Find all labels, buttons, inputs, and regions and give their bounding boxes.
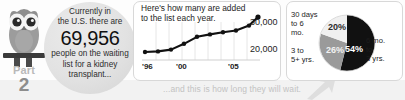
pie-value-20: 20% bbox=[328, 22, 346, 32]
chart-data-points bbox=[143, 14, 261, 54]
pie-label-line-3: 3 yrs. bbox=[366, 54, 385, 63]
headline-text: Currently in the U.S. there are 69,956 p… bbox=[44, 7, 136, 80]
x-tick-2005: '05 bbox=[228, 62, 239, 71]
line-chart-plot bbox=[134, 2, 282, 80]
x-tick-1996: '96 bbox=[142, 62, 153, 71]
pie-label-6mo-to-3yrs: 6 mo. to 3 yrs. bbox=[366, 36, 400, 63]
pie-label-line-2: to 6 bbox=[291, 19, 304, 28]
owl-icon bbox=[2, 3, 46, 59]
value-label-20000: 20,000 bbox=[250, 44, 278, 54]
pie-label-line-2: to bbox=[366, 45, 372, 54]
pie-label-line-3: mo. bbox=[291, 28, 304, 37]
pie-label-30days-to-6mo: 30 days to 6 mo. bbox=[291, 10, 325, 37]
pie-label-line-1: 3 to bbox=[291, 46, 304, 55]
chart-line-series bbox=[145, 17, 258, 52]
headline-figure: 69,956 bbox=[44, 28, 136, 49]
x-tick-2000: '00 bbox=[176, 62, 187, 71]
owl-perch bbox=[3, 53, 45, 58]
headline-line-5: transplant... bbox=[69, 70, 112, 79]
part-number: 2 bbox=[4, 75, 44, 94]
caption-text: ...and this is how long they will wait. bbox=[163, 84, 301, 94]
pie-label-line-1: 6 mo. bbox=[366, 36, 385, 45]
pie-label-3-to-5yrs: 3 to 5+ yrs. bbox=[291, 46, 323, 64]
pie-label-line-1: 30 days bbox=[291, 10, 318, 19]
pie-value-54: 54% bbox=[345, 44, 363, 54]
value-label-30000: 30,000 bbox=[250, 17, 278, 27]
pie-value-26: 26% bbox=[326, 45, 344, 55]
headline-line-2: the U.S. there are bbox=[58, 17, 123, 26]
headline-line-4: list for a kidney bbox=[63, 60, 118, 69]
headline-line-3: people on the waiting bbox=[51, 49, 128, 58]
pie-label-line-2: 5+ yrs. bbox=[291, 55, 314, 64]
infographic-root: ...and this is how long they will wait. … bbox=[0, 0, 405, 100]
headline-line-1: Currently in bbox=[69, 7, 111, 16]
